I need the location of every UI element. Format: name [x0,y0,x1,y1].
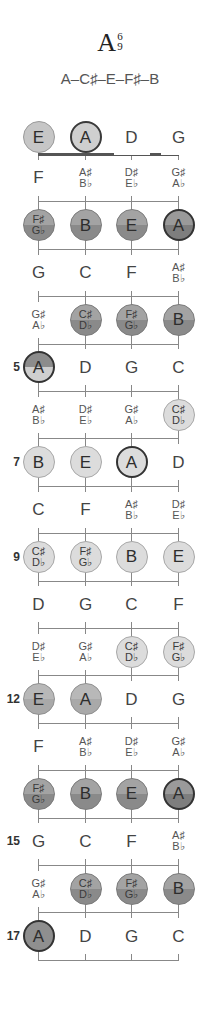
note-name: A [126,454,137,471]
note-name: F [126,264,136,281]
note-label: D♯E♭ [68,397,104,433]
note-name: G♯A♭ [124,404,138,426]
note-name: D [125,129,137,146]
note-name: G♯A♭ [31,309,45,331]
note-name: F♯G♭ [125,309,139,331]
fret-line [38,533,179,534]
note-name: A [33,359,44,376]
note-name: F♯G♭ [79,546,93,568]
note-name: G♯A♭ [31,878,45,900]
note-name: D♯E♭ [125,736,138,758]
fret-number: 15 [0,834,20,848]
chord-note-marker: E [23,683,55,715]
chord-note-marker: F♯G♭ [163,636,195,668]
chord-note-marker: C♯D♭ [70,873,102,905]
note-label: C [21,492,57,528]
note-label: A♯B♭ [21,397,57,433]
note-label: C [114,586,150,622]
note-name: F [80,501,90,518]
note-name: F [33,169,43,186]
note-name: C [79,833,91,850]
note-name: E [33,691,44,708]
note-name: D [79,359,91,376]
note-label: G [21,255,57,291]
note-name: G [172,129,185,146]
note-name: E [126,217,137,234]
chord-note-marker: C♯D♭ [23,541,55,573]
note-name: A [80,691,91,708]
note-name: C♯D♭ [79,878,92,900]
fret-line [38,438,179,439]
fret-line [38,628,179,629]
note-label: G [114,918,150,954]
chord-note-marker: C♯D♭ [163,399,195,431]
note-label: D [21,586,57,622]
chord-note-marker: E [23,121,55,153]
note-label: C [161,918,197,954]
note-label: G [114,349,150,385]
chord-note-marker: C♯D♭ [70,304,102,336]
chord-note-marker: F♯G♭ [23,209,55,241]
note-label: D♯E♭ [21,634,57,670]
note-label: F [21,729,57,765]
note-label: A♯B♭ [161,255,197,291]
chord-note-marker: B [116,541,148,573]
note-name: A♯B♭ [172,262,185,284]
chord-note-marker: F♯G♭ [70,541,102,573]
note-name: G [32,264,45,281]
note-label: D [68,349,104,385]
chord-note-marker: E [70,446,102,478]
note-name: G [125,928,138,945]
note-label: D [114,681,150,717]
fret-line [38,391,179,392]
note-name: B [173,311,184,328]
note-name: A♯B♭ [172,830,185,852]
chord-note-marker: C♯D♭ [116,636,148,668]
note-label: C [161,349,197,385]
note-name: G [32,833,45,850]
note-name: C [172,928,184,945]
note-name: C♯D♭ [32,546,45,568]
root-note-marker: A [70,121,102,153]
note-label: D [68,918,104,954]
fret-line [38,486,179,487]
chord-note-marker: B [70,209,102,241]
note-name: B [173,880,184,897]
note-label: G♯A♭ [161,160,197,196]
note-label: C [68,255,104,291]
note-name: E [173,548,184,565]
note-name: A [80,129,91,146]
note-name: A [33,928,44,945]
note-label: G♯A♭ [68,634,104,670]
fretboard-diagram: EADGFA♯B♭D♯E♭G♯A♭F♯G♭BEAGCFA♯B♭G♯A♭C♯D♭F… [0,0,220,1035]
note-name: D [79,928,91,945]
note-label: G♯A♭ [161,729,197,765]
note-label: G♯A♭ [21,871,57,907]
note-name: C♯D♭ [125,641,138,663]
note-name: G♯A♭ [171,736,185,758]
nut [38,153,179,156]
fret-line [38,770,179,771]
note-label: C [68,823,104,859]
fret-line [38,960,179,961]
note-label: G [68,586,104,622]
fret-line [38,296,179,297]
root-note-marker: A [116,446,148,478]
chord-note-marker: F♯G♭ [23,778,55,810]
note-name: B [33,454,44,471]
note-name: F♯G♭ [125,878,139,900]
root-note-marker: A [163,209,195,241]
note-name: A♯B♭ [125,499,138,521]
root-note-marker: A [23,920,55,952]
fret-number: 12 [0,692,20,706]
note-name: B [80,785,91,802]
fret-number: 17 [0,929,20,943]
note-name: F♯G♭ [172,641,186,663]
note-label: D♯E♭ [114,729,150,765]
note-label: F [114,255,150,291]
note-name: D [125,691,137,708]
note-name: C [32,501,44,518]
note-label: F [114,823,150,859]
fret-line [38,912,179,913]
fret-line [38,344,179,345]
